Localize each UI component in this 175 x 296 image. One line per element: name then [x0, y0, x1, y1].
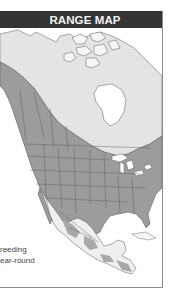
legend-label-breeding: reeding — [0, 244, 27, 255]
range-map-header: RANGE MAP — [0, 11, 162, 28]
cuba — [132, 232, 156, 240]
range-map-title: RANGE MAP — [41, 14, 120, 26]
legend-item-breeding: reeding — [0, 244, 35, 255]
range-legend: reeding ear-round — [0, 244, 35, 266]
legend-item-year-round: ear-round — [0, 255, 35, 266]
legend-label-year-round: ear-round — [0, 255, 35, 266]
